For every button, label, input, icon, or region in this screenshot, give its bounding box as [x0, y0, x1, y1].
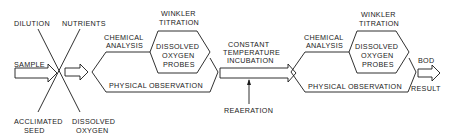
stage1-physical-label: PHYSICAL OBSERVATION	[109, 81, 203, 90]
stage2-dissolved-label: DISSOLVED	[355, 42, 398, 51]
result-label: RESULT	[411, 84, 441, 93]
stage1-titration-label: TITRATION	[159, 18, 199, 27]
stage2-oxygen-label: OXYGEN	[361, 51, 394, 60]
stage2-winkler-label: WINKLER	[361, 10, 396, 19]
stage2-titration-label: TITRATION	[359, 19, 399, 28]
label-seed: SEED	[24, 126, 45, 135]
label-acclimated: ACCLIMATED	[14, 117, 63, 126]
stage1-analysis-label: ANALYSIS	[106, 41, 143, 50]
stage2-probes-label: PROBES	[362, 60, 394, 69]
reaeration-label: REAERATION	[224, 106, 273, 115]
stage2-physical-label: PHYSICAL OBSERVATION	[308, 82, 402, 91]
incubation-label: INCUBATION	[227, 56, 274, 65]
bod-result-arrow-icon	[418, 65, 440, 81]
mixed-sample-arrow-icon	[65, 64, 88, 80]
bod-flow-diagram: DILUTION NUTRIENTS SAMPLE ACCLIMATED SEE…	[0, 0, 453, 139]
incubation-arrow-icon	[220, 64, 296, 82]
stage1-oxygen-label: OXYGEN	[162, 51, 195, 60]
label-oxygen: OXYGEN	[76, 126, 109, 135]
label-dilution: DILUTION	[14, 19, 50, 28]
reaeration-arrow-icon	[247, 79, 251, 104]
label-nutrients: NUTRIENTS	[62, 19, 106, 28]
label-dissolved: DISSOLVED	[72, 117, 115, 126]
bod-label: BOD	[418, 56, 434, 65]
stage1-dissolved-label: DISSOLVED	[156, 42, 199, 51]
stage1-probes-label: PROBES	[163, 60, 195, 69]
stage1-winkler-label: WINKLER	[161, 9, 196, 18]
stage2-analysis-label: ANALYSIS	[306, 41, 343, 50]
